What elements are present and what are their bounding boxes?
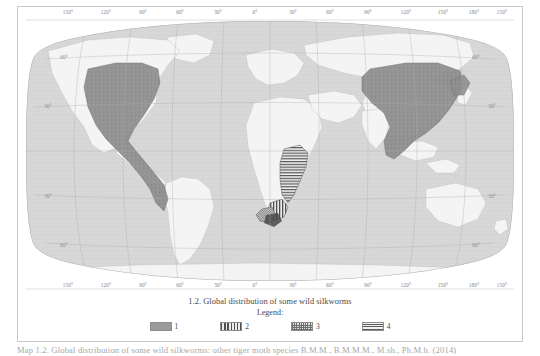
lat-label-right: 60° [472, 54, 479, 60]
lat-label-left: 30° [44, 103, 51, 109]
legend-label-3: 3 [316, 322, 320, 331]
legend-item-1: 1 [150, 322, 179, 331]
lat-label-right: 30° [488, 103, 495, 109]
map-title: 1.2. Global distribution of some wild si… [18, 296, 522, 307]
legend-label-2: 2 [245, 322, 249, 331]
figure-frame: 150° 120° 90° 60° 30° 0° 30° 60° 90° 120… [17, 6, 523, 342]
world-map: 150° 120° 90° 60° 30° 0° 30° 60° 90° 120… [18, 7, 522, 295]
lat-label-left: 60° [60, 242, 67, 248]
legend-swatch-horizontal-stripes [362, 322, 384, 331]
map-canvas [18, 7, 522, 295]
lat-label-left: 30° [44, 193, 51, 199]
legend-item-4: 4 [362, 322, 391, 331]
lat-label-right: 30° [488, 193, 495, 199]
legend-item-3: 3 [291, 322, 320, 331]
legend-label-1: 1 [175, 322, 179, 331]
legend-swatch-checkered [291, 322, 313, 331]
lat-label-left: 60° [60, 54, 67, 60]
legend-swatch-solid [150, 322, 172, 331]
legend-heading: Legend: [18, 307, 522, 319]
legend-label-4: 4 [387, 322, 391, 331]
lat-label-right: 60° [472, 242, 479, 248]
legend-swatch-vertical-stripes [220, 322, 242, 331]
legend-item-2: 2 [220, 322, 249, 331]
page-body-caption: Map 1.2. Global distribution of some wil… [17, 345, 525, 356]
map-content [18, 7, 522, 295]
caption-and-legend: 1.2. Global distribution of some wild si… [18, 295, 522, 341]
page-body-caption-text: Map 1.2. Global distribution of some wil… [17, 345, 525, 355]
legend: 1 2 3 4 [18, 322, 522, 331]
